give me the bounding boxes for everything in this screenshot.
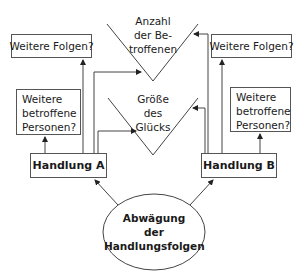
label-line: troffenen (120, 42, 186, 56)
action-b-box: Handlung B (201, 153, 277, 178)
label-line: Größe (120, 92, 186, 106)
arrow-center-to-b (190, 180, 213, 205)
label-line: der (104, 225, 204, 239)
arrow-b-to-happiness (193, 108, 205, 153)
box-label: Weitere Folgen? (10, 39, 94, 53)
label-line: des (120, 106, 186, 120)
label-line: Abwägung (104, 211, 204, 225)
label-line: Anzahl (120, 14, 186, 28)
weighing-label: Abwägung der Handlungsfolgen (104, 211, 204, 253)
action-a-box: Handlung A (30, 153, 107, 178)
label-line: betroffene (22, 106, 75, 120)
box-label: Handlung A (33, 159, 105, 173)
label-line: Personen? (236, 118, 285, 132)
criterion-count-label: Anzahl der Be- troffenen (120, 14, 186, 56)
label-line: Glücks (120, 120, 186, 134)
left-consequences-box: Weitere Folgen? (11, 34, 92, 58)
box-label: Weitere Folgen? (210, 39, 294, 53)
criterion-happiness-label: Größe des Glücks (120, 92, 186, 134)
label-line: Weitere (236, 90, 285, 104)
arrow-a-to-happiness (98, 131, 136, 153)
left-affected-box: Weitere betroffene Personen? (16, 89, 81, 135)
right-consequences-box: Weitere Folgen? (211, 34, 292, 58)
box-label: Handlung B (203, 159, 275, 173)
arrow-center-to-a (95, 180, 118, 205)
label-line: Weitere (22, 92, 75, 106)
label-line: Personen? (22, 120, 75, 134)
label-line: der Be- (120, 28, 186, 42)
label-line: Handlungsfolgen (104, 239, 204, 253)
label-line: betroffene (236, 104, 285, 118)
arrow-b-to-count (194, 34, 208, 153)
right-affected-box: Weitere betroffene Personen? (230, 87, 291, 132)
